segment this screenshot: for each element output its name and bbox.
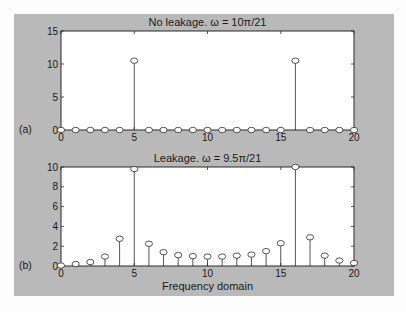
x-tick-label: 15 [275,132,287,143]
axes-a: No leakage. ω = 10π/2105101520051015(a) [19,16,360,143]
circle-marker [72,127,79,132]
circle-marker [263,248,270,253]
x-tick-label: 10 [202,268,214,279]
stem-point [57,263,64,268]
x-tick-label: 0 [58,268,64,279]
stem-point [101,127,108,132]
stem-point [57,127,64,132]
figure-panel: No leakage. ω = 10π/2105101520051015(a)L… [14,14,394,296]
circle-marker [292,58,299,63]
circle-marker [131,166,138,171]
circle-marker [350,260,357,265]
stem-point [336,127,343,132]
circle-marker [292,164,299,169]
chart-title: Leakage. ω = 9.5π/21 [154,152,262,164]
circle-marker [219,127,226,132]
circle-marker [116,127,123,132]
stem-point [175,127,182,132]
circle-marker [277,127,284,132]
x-tick-label: 20 [348,132,360,143]
circle-marker [87,259,94,264]
x-axis-label: Frequency domain [162,280,253,292]
circle-marker [306,235,313,240]
plot-area [61,31,354,130]
circle-marker [101,254,108,259]
y-tick-label: 6 [52,201,58,212]
circle-marker [175,127,182,132]
axes-b: Leakage. ω = 9.5π/21051015200246810(b)Fr… [19,152,360,292]
y-tick-label: 4 [52,221,58,232]
stem-point [219,127,226,132]
circle-marker [219,254,226,259]
x-tick-label: 20 [348,268,360,279]
circle-marker [131,58,138,63]
circle-marker [57,263,64,268]
circle-marker [204,254,211,259]
stem-point [116,127,123,132]
stem-point [277,127,284,132]
circle-marker [116,236,123,241]
circle-marker [160,127,167,132]
circle-marker [306,127,313,132]
x-tick-label: 0 [58,132,64,143]
y-tick-label: 10 [47,162,59,173]
stem-point [233,127,240,132]
circle-marker [204,127,211,132]
circle-marker [233,253,240,258]
circle-marker [336,258,343,263]
circle-marker [233,127,240,132]
y-tick-label: 8 [52,181,58,192]
x-tick-label: 15 [275,268,287,279]
circle-marker [160,249,167,254]
panel-label: (a) [19,123,32,135]
y-tick-label: 15 [47,26,59,37]
circle-marker [321,253,328,258]
circle-marker [321,127,328,132]
panel-label: (b) [19,259,32,271]
stem-point [248,127,255,132]
stem-point [350,260,357,266]
stem-point [145,127,152,132]
stem-point [72,261,79,266]
circle-marker [248,252,255,257]
circle-marker [189,127,196,132]
stem-point [321,127,328,132]
y-tick-label: 5 [52,92,58,103]
x-tick-label: 5 [131,268,137,279]
stem-point [263,127,270,132]
circle-marker [87,127,94,132]
circle-marker [175,252,182,257]
stem-point [350,127,357,132]
circle-marker [72,261,79,266]
circle-marker [263,127,270,132]
y-tick-label: 10 [47,59,59,70]
circle-marker [277,241,284,246]
circle-marker [189,253,196,258]
circle-marker [336,127,343,132]
y-tick-label: 2 [52,241,58,252]
circle-marker [57,127,64,132]
stem-point [160,127,167,132]
chart-title: No leakage. ω = 10π/21 [148,16,266,28]
circle-marker [145,241,152,246]
circle-marker [350,127,357,132]
stem-plots: No leakage. ω = 10π/2105101520051015(a)L… [14,14,394,296]
stem-point [189,127,196,132]
stem-point [72,127,79,132]
stem-point [204,127,211,132]
x-tick-label: 5 [131,132,137,143]
stem-point [87,127,94,132]
stem-point [306,127,313,132]
circle-marker [248,127,255,132]
circle-marker [145,127,152,132]
circle-marker [101,127,108,132]
x-tick-label: 10 [202,132,214,143]
